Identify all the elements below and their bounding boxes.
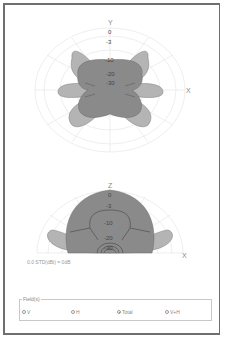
radio-v-plus-h-label: V+H [170,309,180,315]
ring-label-30-bottom: -30 [104,245,113,251]
radio-circle-icon[interactable] [165,310,169,314]
radio-v-label: V [27,309,30,315]
radio-circle-icon[interactable] [22,310,26,314]
radio-h[interactable]: H [71,309,80,315]
y-axis-label: Y [108,19,113,26]
radio-total[interactable]: Total [117,309,133,315]
ring-label-20: -20 [106,71,115,77]
radio-h-label: H [76,309,80,315]
xz-polar-chart: Z 0 -3 -10 -20 -30 X [0,170,228,265]
xy-polar-chart: Y 0 -3 -10 -20 -30 X [0,0,228,170]
ring-label-0: 0 [108,29,112,35]
ring-label-3-bottom: -3 [106,203,112,209]
x-axis-label: X [186,87,191,94]
fields-legend: Field(s) [22,296,41,302]
inner-pattern-dark [78,60,143,118]
fields-group: Field(s) V H Total V+H [19,299,212,321]
radio-circle-icon[interactable] [71,310,75,314]
ring-label-10-bottom: -10 [104,220,113,226]
radio-v-plus-h[interactable]: V+H [165,309,180,315]
ring-label-20-bottom: -20 [104,235,113,241]
gain-caption: 0.0 STD(dBi) = 0dB [27,259,71,265]
ring-label-3: -3 [106,39,112,45]
x-axis-label-bottom: X [182,252,187,259]
z-axis-label: Z [108,182,113,189]
radio-total-label: Total [122,309,133,315]
ring-label-10: -10 [105,57,114,63]
ring-label-30: -30 [106,80,115,86]
radio-v[interactable]: V [22,309,30,315]
radio-selected-icon[interactable] [117,310,121,314]
